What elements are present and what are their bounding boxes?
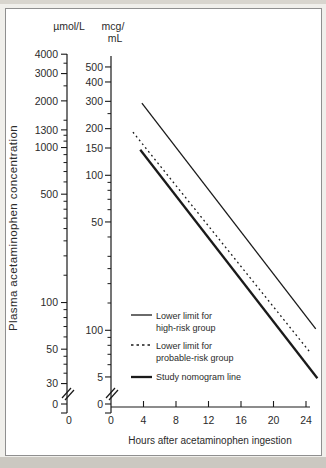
y-tick-label: 0 — [97, 398, 103, 410]
y-tick-label: 50 — [46, 343, 58, 355]
y-tick-label: 300 — [85, 95, 103, 107]
line-high-risk — [142, 103, 316, 329]
axis-break-icon — [106, 388, 118, 400]
y-tick-label: 100 — [85, 324, 103, 336]
y-tick-label: 30 — [46, 377, 58, 389]
axis-break-icon — [62, 388, 74, 400]
y-tick-label: 200 — [85, 122, 103, 134]
y-tick-label: 4000 — [35, 48, 59, 60]
y-tick-label: 1000 — [35, 141, 59, 153]
y-tick-label: 500 — [85, 61, 103, 73]
y-tick-label: 500 — [40, 188, 58, 200]
mcg-axis: 5004003002001501005010050 — [85, 56, 118, 413]
x-zero-label-under-umol-axis: 0 — [66, 414, 72, 426]
y-tick-label: 100 — [40, 296, 58, 308]
y-tick-label: 150 — [85, 142, 103, 154]
y-tick-label: 3000 — [35, 67, 59, 79]
y-tick-label: 2000 — [35, 95, 59, 107]
legend-entry-label: Lower limit for — [156, 311, 212, 321]
legend-entry-label: probable-risk group — [156, 353, 234, 363]
legend-entry-label: Study nomogram line — [156, 372, 241, 382]
x-tick-label: 8 — [173, 414, 179, 426]
x-axis-title: Hours after acetaminophen ingestion — [128, 435, 291, 446]
mcg-unit-label-line1: mcg/ — [102, 20, 125, 32]
y-tick-label: 100 — [85, 169, 103, 181]
x-tick-label: 20 — [268, 414, 280, 426]
legend: Lower limit forhigh-risk groupLower limi… — [131, 311, 241, 382]
y-tick-label: 0 — [52, 398, 58, 410]
x-tick-label: 16 — [235, 414, 247, 426]
legend-entry-label: high-risk group — [156, 323, 216, 333]
legend-entry-label: Lower limit for — [156, 341, 212, 351]
y-tick-label: 400 — [85, 76, 103, 88]
umol-axis: 4000300020001300100050010050300 — [35, 48, 74, 413]
y-tick-label: 1300 — [35, 124, 59, 136]
acetaminophen-nomogram-chart: 4000300020001300100050010050300500400300… — [0, 0, 326, 468]
y-tick-label: 50 — [91, 216, 103, 228]
x-tick-label: 4 — [141, 414, 147, 426]
mcg-unit-label-line2: mL — [108, 32, 123, 44]
y-tick-label: 5 — [97, 371, 103, 383]
x-tick-label: 24 — [300, 414, 312, 426]
umol-unit-label: µmol/L — [53, 20, 85, 32]
y-axis-title: Plasma acetaminophen concentration — [7, 125, 19, 331]
x-tick-label: 0 — [108, 414, 114, 426]
x-tick-label: 12 — [203, 414, 215, 426]
